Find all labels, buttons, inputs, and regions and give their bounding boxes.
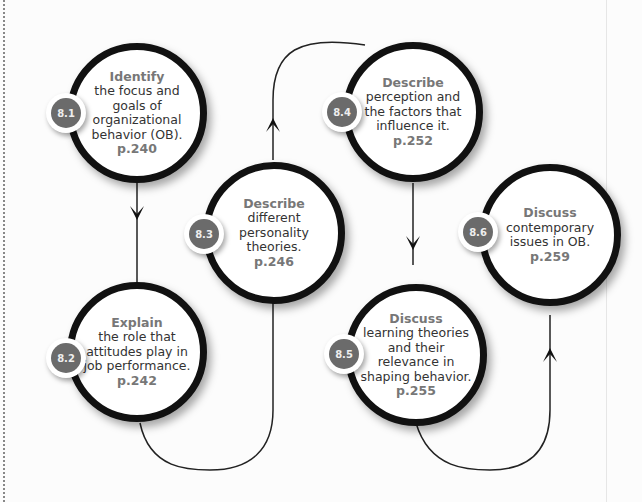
objective-node-8-2: Explainthe role that attitudes play in j… <box>67 282 207 422</box>
node-page: p.252 <box>358 134 468 149</box>
node-text: the focus and goals of organizational be… <box>92 83 183 142</box>
node-verb: Discuss <box>360 312 472 327</box>
node-verb: Identify <box>82 70 192 85</box>
objective-node-8-4: Describeperception and the factors that … <box>343 42 483 182</box>
badge-8-6: 8.6 <box>458 212 498 252</box>
badge-8-2: 8.2 <box>46 338 86 378</box>
node-page: p.259 <box>494 250 606 265</box>
node-text: different personality theories. <box>239 210 309 254</box>
node-verb: Explain <box>82 316 192 331</box>
node-verb: Discuss <box>494 206 606 221</box>
node-text: contemporary issues in OB. <box>506 220 594 250</box>
node-verb: Describe <box>358 76 468 91</box>
badge-8-5: 8.5 <box>324 334 364 374</box>
badge-8-4: 8.4 <box>322 92 362 132</box>
node-page: p.246 <box>218 255 330 270</box>
badge-8-3: 8.3 <box>184 214 224 254</box>
node-text: perception and the factors that influenc… <box>365 89 462 133</box>
objective-node-8-1: Identifythe focus and goals of organizat… <box>67 43 207 183</box>
node-text: the role that attitudes play in job perf… <box>83 329 190 373</box>
node-page: p.255 <box>360 384 472 399</box>
objective-node-8-5: Discusslearning theories and their relev… <box>345 284 487 426</box>
node-verb: Describe <box>218 197 330 212</box>
node-page: p.240 <box>82 142 192 157</box>
node-page: p.242 <box>82 374 192 389</box>
node-text: learning theories and their relevance in… <box>360 325 471 384</box>
objective-node-8-3: Describedifferent personality theories.p… <box>203 162 345 304</box>
objective-node-8-6: Discusscontemporary issues in OB.p.259 <box>479 164 621 306</box>
badge-8-1: 8.1 <box>46 93 86 133</box>
